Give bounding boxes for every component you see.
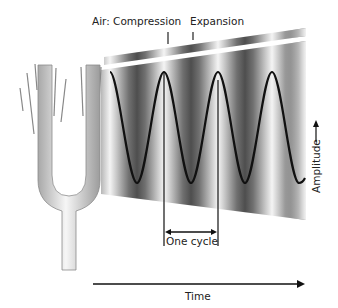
arrow-up-icon	[313, 120, 319, 127]
one-cycle-label: One cycle	[166, 235, 218, 247]
amplitude-axis: Amplitude	[310, 120, 322, 193]
amplitude-label: Amplitude	[310, 139, 322, 193]
arrow-right-icon	[297, 280, 305, 288]
expansion-label: Expansion	[190, 15, 244, 27]
time-label: Time	[184, 290, 211, 302]
sound-wave-diagram: Air: Compression Expansion One cycle Amp…	[0, 0, 338, 308]
tuning-fork	[20, 64, 101, 270]
compression-label: Air: Compression	[92, 15, 181, 27]
time-axis	[93, 280, 305, 288]
